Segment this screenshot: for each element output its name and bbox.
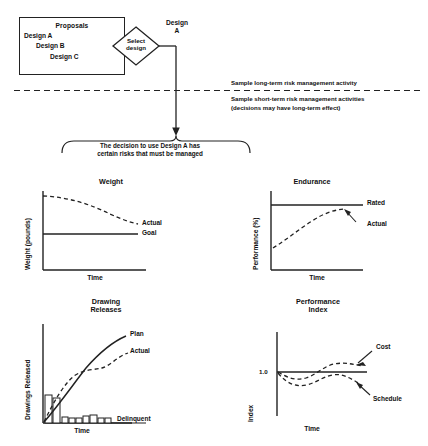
- chart-drawing-releases-series-delinquent: Delinquent: [117, 415, 151, 422]
- chart-drawing-releases-series-plan: Plan: [130, 330, 144, 337]
- chart-weight-series-goal: Goal: [142, 229, 156, 236]
- decision-label-line2: design: [113, 44, 159, 51]
- chart-endurance: Endurance Performance (%) Time Rated Act…: [230, 178, 428, 286]
- selected-design-line2: A: [160, 27, 194, 35]
- chart-endurance-series-rated: Rated: [367, 199, 385, 206]
- annotation-long-term: Sample long-term risk management activit…: [231, 79, 357, 86]
- selected-design-line1: Design: [160, 19, 194, 27]
- chart-performance-index-series-cost: Cost: [376, 343, 390, 350]
- risk-callout-line2: certain risks that must be managed: [57, 150, 243, 158]
- chart-performance-index: Performance Index Index 1.0 Time Cost Sc…: [230, 296, 428, 442]
- chart-weight: Weight Weight (pounds) Time Actual Goal: [14, 178, 210, 286]
- decision-label-line1: Select: [113, 37, 159, 44]
- chart-drawing-releases: Drawing Releases Drawings Released Time …: [14, 296, 210, 442]
- decision-diamond-label: Select design: [113, 37, 159, 52]
- chart-weight-series-actual: Actual: [142, 219, 162, 226]
- chart-performance-index-series-schedule: Schedule: [373, 395, 402, 402]
- annotation-short-term-line1: Sample short-term risk management activi…: [231, 95, 364, 104]
- selected-design-label: Design A: [160, 19, 194, 35]
- chart-performance-index-plot: [230, 296, 428, 442]
- chart-endurance-plot: [230, 178, 428, 286]
- chart-drawing-releases-plot: [14, 296, 210, 442]
- annotation-short-term: Sample short-term risk management activi…: [231, 95, 364, 112]
- risk-callout-line1: The decision to use Design A has: [57, 142, 243, 150]
- risk-callout-text: The decision to use Design A has certain…: [57, 142, 243, 159]
- chart-drawing-releases-series-actual: Actual: [130, 347, 150, 354]
- chart-endurance-series-actual: Actual: [367, 220, 387, 227]
- annotation-short-term-line2: (decisions may have long-term effect): [231, 104, 364, 113]
- chart-weight-plot: [14, 178, 210, 286]
